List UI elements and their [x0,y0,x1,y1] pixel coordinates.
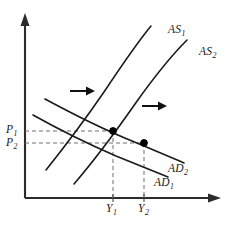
label-p1: P1 [6,124,17,136]
label-ad2-text: AD [168,162,184,174]
label-y2-text: Y [138,202,145,214]
label-ad1-subscript: 1 [170,182,174,191]
label-y1-text: Y [106,202,113,214]
label-p1-text: P [6,123,13,135]
label-as2-text: AS [199,45,212,57]
curve-ad1 [33,115,168,177]
label-p2-subscript: 2 [14,142,18,151]
label-as1-subscript: 1 [181,29,185,38]
ad-as-shift-diagram: AS1 AS2 AD2 AD1 P1 P2 Y1 Y2 [0,0,232,230]
x-axis-arrowhead [208,194,221,203]
axes-group [21,13,222,203]
label-p2: P2 [6,137,17,149]
label-y1-subscript: 1 [113,208,117,217]
y-axis-arrowhead [21,13,30,26]
label-y2: Y2 [138,203,149,215]
shift-arrow-supply-head [86,87,95,96]
label-p2-text: P [6,136,13,148]
shift-arrow-demand-head [158,102,167,111]
label-y1: Y1 [106,203,117,215]
equilibrium-point-1 [110,128,117,135]
label-ad1-text: AD [154,176,170,188]
equilibrium-point-2 [141,140,148,147]
label-ad2-subscript: 2 [184,168,188,177]
label-as2: AS2 [199,46,216,58]
label-as1-text: AS [168,23,181,35]
label-ad2: AD2 [168,163,188,175]
label-y2-subscript: 2 [145,208,149,217]
shift-arrow-demand [142,102,167,111]
label-as1: AS1 [168,24,185,36]
diagram-canvas [0,0,232,230]
shift-arrow-supply [70,87,95,96]
label-ad1: AD1 [154,177,174,189]
label-as2-subscript: 2 [212,51,216,60]
